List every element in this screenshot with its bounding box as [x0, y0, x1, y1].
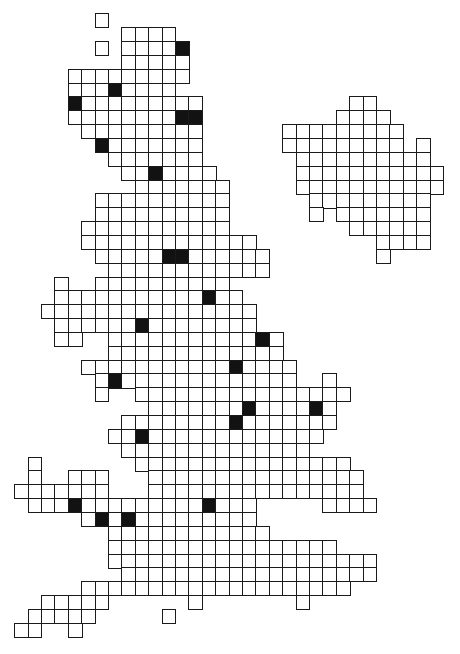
grid-cell — [416, 235, 431, 250]
grid-cell — [376, 249, 391, 264]
grid-cell — [363, 96, 378, 111]
grid-cell — [309, 207, 324, 222]
grid-cell — [430, 180, 445, 195]
grid-cell — [389, 124, 404, 139]
grid-cell — [430, 166, 445, 181]
grid-map — [0, 0, 460, 654]
grid-cell — [416, 193, 431, 208]
region-ireland — [0, 0, 460, 654]
